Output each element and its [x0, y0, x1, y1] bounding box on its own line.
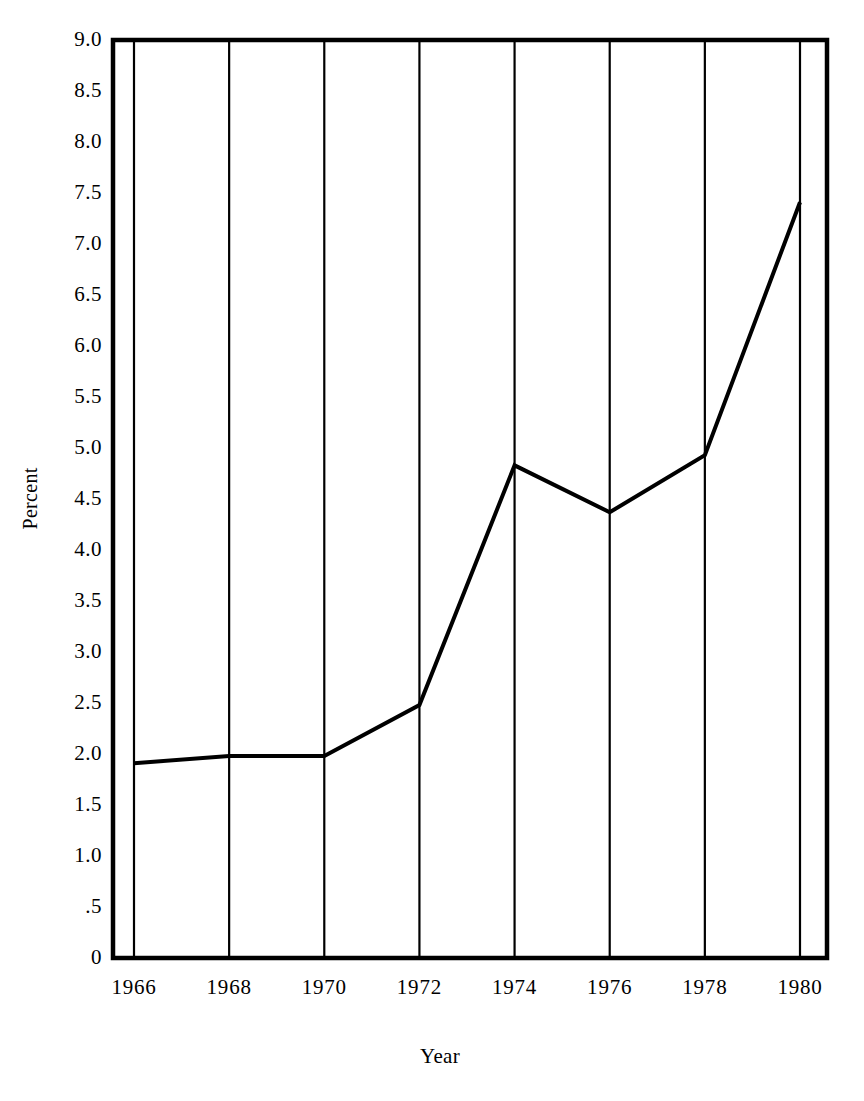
x-tick-label: 1980 [755, 975, 845, 999]
x-tick-label: 1966 [89, 975, 179, 999]
chart-container: Percent 0.51.01.52.02.53.03.54.04.55.05.… [0, 0, 864, 1101]
x-tick-label: 1976 [565, 975, 655, 999]
x-tick-label: 1970 [279, 975, 369, 999]
x-tick-label: 1974 [470, 975, 560, 999]
x-tick-label: 1968 [184, 975, 274, 999]
x-axis-tick-labels: 19661968197019721974197619781980 [0, 0, 864, 1101]
x-tick-label: 1978 [660, 975, 750, 999]
x-tick-label: 1972 [374, 975, 464, 999]
x-axis-title: Year [0, 1044, 864, 1069]
